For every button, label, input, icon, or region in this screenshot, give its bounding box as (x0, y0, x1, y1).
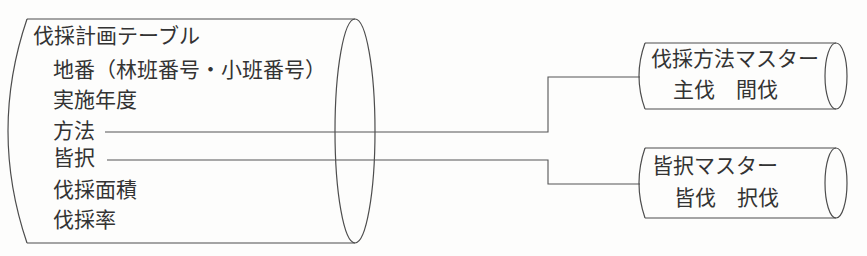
kaitaku-master-values: 皆伐 択伐 (674, 188, 779, 209)
main-table-title: 伐採計画テーブル (33, 26, 200, 47)
main-table-cylinder-end (335, 19, 375, 243)
field-bassai-menseki: 伐採面積 (53, 180, 137, 201)
connector-method-to-master (105, 77, 640, 132)
kaitaku-master-cylinder-end (825, 148, 847, 218)
method-master-title: 伐採方法マスター (651, 49, 819, 70)
method-master-values: 主伐 間伐 (673, 80, 778, 101)
field-chiban: 地番（林班番号・小班番号） (53, 60, 326, 81)
field-jisshi-nendo: 実施年度 (53, 90, 137, 111)
field-bassai-ritsu: 伐採率 (53, 210, 116, 231)
kaitaku-master-title: 皆択マスター (652, 156, 778, 177)
method-master-cylinder-end (825, 43, 847, 109)
field-kaitaku: 皆択 (53, 148, 95, 169)
field-houhou: 方法 (53, 121, 95, 142)
er-diagram-canvas: 伐採計画テーブル 地番（林班番号・小班番号） 実施年度 方法 皆択 伐採面積 伐… (0, 0, 867, 256)
